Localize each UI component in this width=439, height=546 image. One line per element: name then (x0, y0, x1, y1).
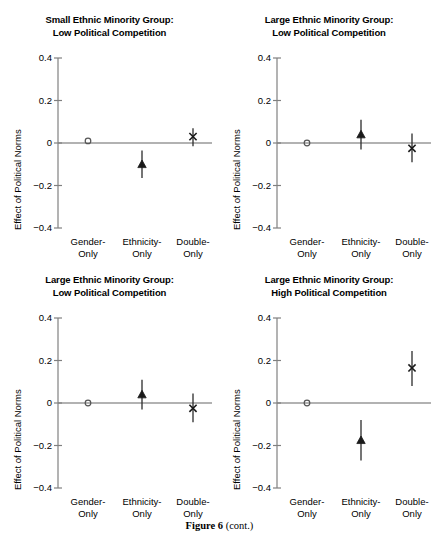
x-axis-category-line-1: Gender- (58, 236, 118, 248)
data-point-group (357, 420, 365, 460)
y-axis-tick-label: 0.2 (10, 355, 52, 366)
figure-6-panel-grid: Small Ethnic Minority Group: Low Politic… (0, 0, 439, 546)
plot-area: 0.40.20−0.2−0.4Effect of Political Norms… (0, 0, 219, 260)
marker-triangle-icon (138, 160, 146, 168)
x-axis-category-line-1: Double- (163, 236, 223, 248)
x-axis-category-line-1: Double- (163, 496, 223, 508)
data-point-group (408, 133, 415, 162)
plot-svg (219, 260, 439, 516)
x-axis-category-label: Double-Only (163, 496, 223, 519)
panel-bottom-left: Large Ethnic Minority Group: Low Politic… (0, 260, 219, 516)
panel-bottom-right: Large Ethnic Minority Group: High Politi… (219, 260, 439, 516)
x-axis-category-line-2: Only (163, 248, 223, 260)
x-axis-category-line-2: Only (58, 248, 118, 260)
marker-triangle-icon (357, 130, 365, 138)
y-axis-label: Effect of Political Norms (12, 389, 23, 490)
x-axis-category-line-1: Gender- (58, 496, 118, 508)
x-axis-category-line-1: Double- (382, 496, 439, 508)
x-axis-category-line-2: Only (382, 248, 439, 260)
panel-grid: Small Ethnic Minority Group: Low Politic… (0, 0, 439, 516)
marker-triangle-icon (138, 390, 146, 398)
x-axis-category-label: Double-Only (382, 236, 439, 259)
y-axis-label: Effect of Political Norms (231, 389, 242, 490)
figure-caption-suffix: (cont.) (223, 520, 253, 531)
y-axis-tick-label: 0.4 (229, 52, 271, 63)
plot-svg (219, 0, 439, 260)
data-point-group (357, 120, 365, 150)
x-axis-category-label: Gender-Only (277, 496, 337, 519)
y-axis-tick-label: 0.2 (229, 355, 271, 366)
x-axis-category-label: Gender-Only (277, 236, 337, 259)
x-axis-category-line-2: Only (163, 508, 223, 520)
plot-area: 0.40.20−0.2−0.4Effect of Political Norms… (0, 260, 219, 516)
y-axis-tick-label: 0.2 (229, 95, 271, 106)
data-point-group (408, 351, 415, 386)
plot-area: 0.40.20−0.2−0.4Effect of Political Norms… (219, 260, 439, 516)
y-axis-label: Effect of Political Norms (231, 129, 242, 230)
x-axis-category-label: Double-Only (382, 496, 439, 519)
x-axis-category-line-1: Double- (382, 236, 439, 248)
x-axis-category-line-1: Gender- (277, 236, 337, 248)
marker-triangle-icon (357, 436, 365, 444)
x-axis-category-label: Double-Only (163, 236, 223, 259)
y-axis-label: Effect of Political Norms (12, 129, 23, 230)
x-axis-category-label: Gender-Only (58, 236, 118, 259)
figure-caption-label: Figure 6 (186, 520, 223, 531)
plot-svg (0, 0, 219, 260)
y-axis-tick-label: 0.4 (10, 312, 52, 323)
x-axis-category-line-1: Gender- (277, 496, 337, 508)
plot-area: 0.40.20−0.2−0.4Effect of Political Norms… (219, 0, 439, 260)
panel-top-left: Small Ethnic Minority Group: Low Politic… (0, 0, 219, 260)
y-axis-tick-label: 0.4 (229, 312, 271, 323)
x-axis-category-line-2: Only (58, 508, 118, 520)
figure-caption: Figure 6 (cont.) (0, 520, 439, 531)
y-axis-tick-label: 0.2 (10, 95, 52, 106)
data-point-group (138, 150, 146, 178)
x-axis-category-label: Gender-Only (58, 496, 118, 519)
y-axis-tick-label: 0.4 (10, 52, 52, 63)
data-point-group (189, 393, 196, 422)
data-point-group (138, 380, 146, 410)
plot-svg (0, 260, 219, 516)
x-axis-category-line-2: Only (382, 508, 439, 520)
x-axis-category-line-2: Only (277, 248, 337, 260)
panel-top-right: Large Ethnic Minority Group: Low Politic… (219, 0, 439, 260)
x-axis-category-line-2: Only (277, 508, 337, 520)
